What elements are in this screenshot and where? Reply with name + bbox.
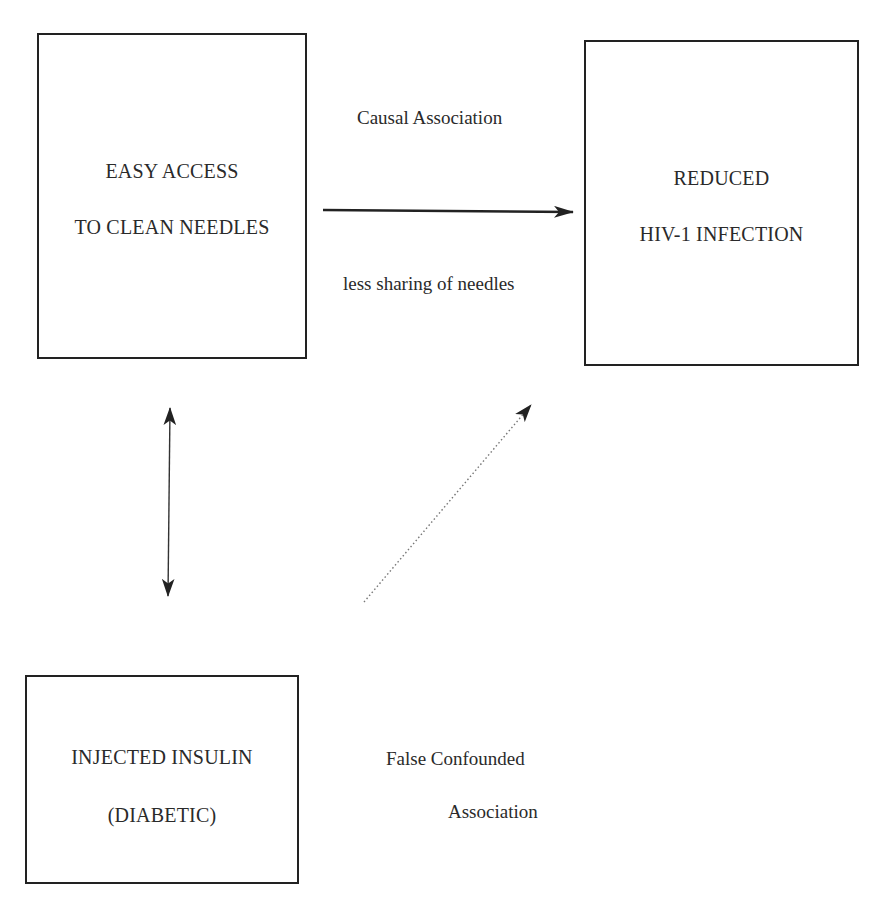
bidirectional-arrow <box>168 408 170 596</box>
false-association-dotted-arrow <box>364 405 531 602</box>
arrows-layer <box>0 0 884 911</box>
diagram-canvas: EASY ACCESS TO CLEAN NEEDLES REDUCED HIV… <box>0 0 884 911</box>
causal-arrow <box>323 210 573 212</box>
